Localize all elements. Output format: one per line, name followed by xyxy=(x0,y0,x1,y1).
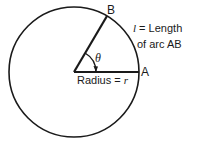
arc-length-label: l = Length xyxy=(133,22,182,34)
radius-label: Radius = r xyxy=(77,74,128,86)
arc-length-text: = Length xyxy=(136,22,182,34)
theta-label: θ xyxy=(95,52,101,64)
point-a-label: A xyxy=(141,66,149,78)
radius-text: Radius = xyxy=(77,74,124,86)
arc-length-diagram: B A θ l = Length of arc AB Radius = r xyxy=(0,0,198,148)
point-b-label: B xyxy=(107,4,115,16)
radius-ob xyxy=(74,16,107,72)
arc-length-label-line2: of arc AB xyxy=(137,38,182,50)
radius-variable: r xyxy=(124,74,128,86)
